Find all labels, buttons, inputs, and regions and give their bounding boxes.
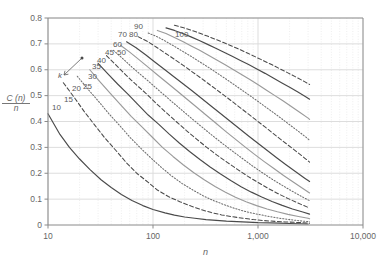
- curve-k-20: [77, 76, 309, 222]
- k-direction-arrow: [64, 57, 84, 76]
- curve-label-k-15: 15: [64, 95, 73, 104]
- y-axis-label: C (n) n: [2, 94, 30, 113]
- curve-k-60: [138, 37, 310, 162]
- k-parameter-label: k: [58, 71, 62, 80]
- curve-label-k-80: 80: [129, 30, 138, 39]
- x-tick-label-10000: 10,000: [333, 231, 380, 241]
- curve-label-k-40: 40: [97, 56, 106, 65]
- axis-ticks: [45, 18, 364, 229]
- y-tick-label-0: 0: [8, 220, 42, 230]
- curve-label-k-70: 70: [118, 30, 127, 39]
- x-tick-label-10: 10: [18, 231, 78, 241]
- plot-canvas: [0, 0, 380, 263]
- y-tick-label-0p3: 0.3: [8, 142, 42, 152]
- y-tick-label-0p2: 0.2: [8, 168, 42, 178]
- curve-label-k-45: 45: [105, 48, 114, 57]
- x-tick-label-100: 100: [123, 231, 183, 241]
- curve-k-25: [90, 70, 310, 219]
- y-major-gridlines: [48, 18, 363, 199]
- y-tick-label-0p7: 0.7: [8, 38, 42, 48]
- y-tick-label-0p4: 0.4: [8, 116, 42, 126]
- x-axis-label: n: [176, 247, 236, 257]
- y-axis-label-denominator: n: [2, 104, 30, 113]
- curve-label-k-10: 10: [52, 103, 61, 112]
- curve-label-k-100: 100: [175, 30, 188, 39]
- curve-label-k-20: 20: [72, 84, 81, 93]
- y-tick-label-0p8: 0.8: [8, 13, 42, 23]
- x-tick-label-1000: 1,000: [228, 231, 288, 241]
- curve-label-k-50: 50: [117, 48, 126, 57]
- curve-group: [48, 25, 310, 224]
- y-tick-label-0p1: 0.1: [8, 194, 42, 204]
- chart-figure: 00.10.20.30.40.50.60.70.8 101001,00010,0…: [0, 0, 380, 263]
- curve-label-k-25: 25: [83, 82, 92, 91]
- y-tick-label-0p6: 0.6: [8, 64, 42, 74]
- curve-label-k-60: 60: [113, 40, 122, 49]
- curve-label-k-30: 30: [88, 72, 97, 81]
- curve-label-k-90: 90: [134, 22, 143, 31]
